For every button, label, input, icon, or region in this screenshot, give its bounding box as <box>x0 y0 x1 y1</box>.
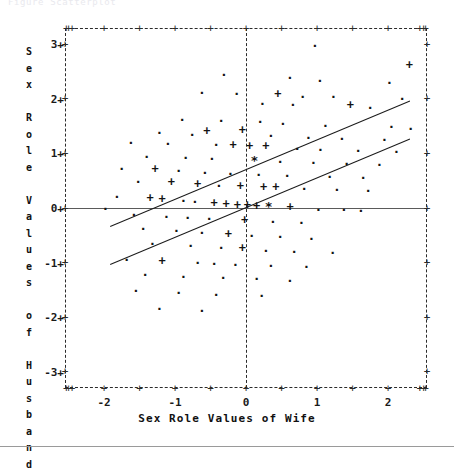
y-axis-title-char <box>22 176 36 193</box>
data-point-single: . <box>182 149 190 160</box>
data-point-single: . <box>212 136 220 147</box>
data-point-single: . <box>163 208 171 219</box>
data-point-single: . <box>212 286 220 297</box>
x-tick-label: -2 <box>94 397 114 408</box>
data-point-single: . <box>184 209 192 220</box>
data-point-single: . <box>267 127 275 138</box>
data-point-single: . <box>248 227 256 238</box>
frame-tick-top: + <box>383 23 392 34</box>
frame-tick-bottom: + <box>421 383 430 394</box>
frame-tick-bottom: + <box>348 383 357 394</box>
data-point-single: . <box>269 213 277 224</box>
y-tick-label: -1+ <box>0 258 64 269</box>
data-point-single: . <box>357 202 365 213</box>
data-point-single: . <box>385 74 393 85</box>
data-point-single: . <box>208 150 216 161</box>
frame-tick-bottom: + <box>312 383 321 394</box>
y-axis-title-char <box>22 292 36 309</box>
data-point-single: . <box>326 168 334 179</box>
data-point-double: + <box>151 164 159 175</box>
frame-tick-top: + <box>206 23 215 34</box>
frame-tick-bottom: + <box>206 383 215 394</box>
y-tick-label: 3+ <box>0 39 64 50</box>
y-axis-title-char: f <box>22 325 36 342</box>
data-point-single: . <box>141 266 149 277</box>
data-point-single: . <box>293 140 301 151</box>
data-point-single: . <box>205 210 213 221</box>
data-point-double: + <box>286 202 294 213</box>
x-tick-label: 0 <box>236 397 256 408</box>
frame-tick-top: + <box>348 23 357 34</box>
data-point-single: . <box>210 255 218 266</box>
data-point-single: . <box>338 130 346 141</box>
y-axis-title-char: n <box>22 440 36 457</box>
data-point-single: . <box>188 126 196 137</box>
data-point-single: . <box>279 115 287 126</box>
data-point-double: + <box>246 141 254 152</box>
data-point-single: . <box>343 155 351 166</box>
frame-tick-bottom: + <box>383 383 392 394</box>
data-point-single: . <box>217 239 225 250</box>
data-point-double: + <box>158 194 166 205</box>
top-caption: Figure Scatterplot <box>8 0 308 8</box>
data-point-single: . <box>258 287 266 298</box>
data-point-single: . <box>198 224 206 235</box>
data-point-single: . <box>286 272 294 283</box>
data-point-double: + <box>224 229 232 240</box>
data-point-double: + <box>158 256 166 267</box>
data-point-single: . <box>388 118 396 129</box>
y-tick-label: 1+ <box>0 148 64 159</box>
y-tick-label: -2+ <box>0 312 64 323</box>
y-axis-title-char: l <box>22 226 36 243</box>
data-point-double: + <box>253 201 261 212</box>
data-point-single: . <box>258 95 266 106</box>
frame-tick-right: + <box>423 39 432 50</box>
frame-tick-right: + <box>423 203 432 214</box>
data-point-double: + <box>243 200 251 211</box>
frame-tick-bottom: + <box>277 383 286 394</box>
y-axis-title-char: R <box>22 110 36 127</box>
data-point-single: . <box>299 88 307 99</box>
data-point-single: . <box>321 117 329 128</box>
data-point-single: . <box>317 141 325 152</box>
frame-tick-right: + <box>423 312 432 323</box>
data-point-single: . <box>307 230 315 241</box>
frame-tick-left: + <box>61 148 70 159</box>
data-point-single: . <box>354 142 362 153</box>
data-point-single: . <box>256 113 264 124</box>
data-point-single: . <box>283 167 291 178</box>
x-tick-label: 2 <box>378 397 398 408</box>
data-point-single: . <box>304 129 312 140</box>
data-point-single: . <box>364 182 372 193</box>
x-tick-label: -1 <box>165 397 185 408</box>
data-point-single: . <box>359 169 367 180</box>
data-point-single: . <box>311 37 319 48</box>
data-point-double: + <box>203 126 211 137</box>
data-point-double: + <box>274 89 282 100</box>
frame-tick-top: + <box>171 23 180 34</box>
data-point-single: . <box>407 120 415 131</box>
data-point-single: . <box>314 201 322 212</box>
y-axis-title-char: d <box>22 457 36 472</box>
data-point-double: + <box>233 200 241 211</box>
data-point-single: . <box>290 243 298 254</box>
data-point-single: . <box>329 244 337 255</box>
y-axis-title-char: a <box>22 424 36 441</box>
frame-tick-right: + <box>423 148 432 159</box>
data-point-double: + <box>146 193 154 204</box>
x-axis-title: Sex Role Values of Wife <box>0 412 454 425</box>
data-point-single: . <box>289 96 297 107</box>
data-point-single: . <box>267 257 275 268</box>
y-axis-title-char: o <box>22 127 36 144</box>
frame-tick-left: + <box>61 312 70 323</box>
data-point-single: . <box>215 177 223 188</box>
data-point-single: . <box>198 302 206 313</box>
data-point-single: . <box>123 251 131 262</box>
y-tick-label: 0+ <box>0 203 64 214</box>
data-point-single: . <box>164 135 172 146</box>
data-point-single: . <box>139 220 147 231</box>
frame-tick-bottom: + <box>242 383 251 394</box>
data-point-single: . <box>380 131 388 142</box>
data-point-single: . <box>130 206 138 217</box>
